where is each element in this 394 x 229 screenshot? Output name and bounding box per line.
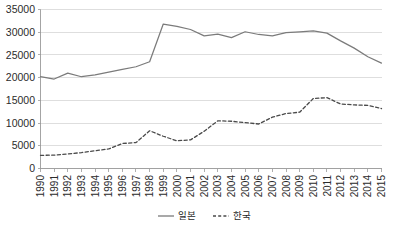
- x-tick-label: 2008: [281, 175, 292, 198]
- y-tick-label: 0: [29, 162, 35, 174]
- x-tick-label: 1991: [49, 175, 60, 198]
- x-tick-label: 2006: [253, 175, 264, 198]
- y-axis: [38, 10, 41, 169]
- x-tick-label: 1999: [158, 175, 169, 198]
- chart-legend: 일본한국: [158, 210, 251, 221]
- x-tick-label: 1993: [76, 175, 87, 198]
- x-tick-label: 2010: [308, 175, 319, 198]
- y-tick-label: 15000: [6, 94, 35, 106]
- x-tick-label: 2005: [240, 175, 251, 198]
- x-tick-label: 1997: [131, 175, 142, 198]
- x-tick-label: 2000: [172, 175, 183, 198]
- x-tick-label: 2011: [322, 175, 333, 197]
- series-line-korea: [41, 98, 382, 156]
- y-tick-label: 35000: [6, 3, 35, 15]
- x-tick-label: 1995: [103, 175, 114, 198]
- x-tick-label: 1994: [90, 175, 101, 198]
- chart-canvas: 05000100001500020000250003000035000 1990…: [0, 0, 394, 229]
- x-tick-label: 1998: [144, 175, 155, 198]
- x-tick-label: 2002: [199, 175, 210, 198]
- gridlines: [41, 10, 382, 169]
- x-tick-label: 2012: [335, 175, 346, 198]
- x-tick-label: 2013: [349, 175, 360, 198]
- x-tick-label: 2004: [226, 175, 237, 198]
- line-chart: 05000100001500020000250003000035000 1990…: [0, 0, 394, 229]
- x-tick-label: 2015: [376, 175, 387, 198]
- x-tick-label: 1990: [35, 175, 46, 198]
- x-tick-label: 1996: [117, 175, 128, 198]
- x-axis: [41, 169, 382, 172]
- x-tick-label: 2014: [362, 175, 373, 198]
- x-tick-label: 2001: [185, 175, 196, 198]
- x-tick-labels: 1990199119921993199419951996199719981999…: [35, 175, 387, 198]
- y-tick-label: 10000: [6, 117, 35, 129]
- x-tick-label: 2007: [267, 175, 278, 198]
- legend-label: 일본: [178, 210, 196, 221]
- x-tick-label: 1992: [62, 175, 73, 198]
- y-tick-label: 5000: [12, 139, 36, 151]
- y-tick-label: 30000: [6, 26, 35, 38]
- x-tick-label: 2003: [212, 175, 223, 198]
- y-tick-label: 20000: [6, 71, 35, 83]
- y-tick-label: 25000: [6, 49, 35, 61]
- x-tick-label: 2009: [294, 175, 305, 198]
- y-tick-labels: 05000100001500020000250003000035000: [6, 3, 35, 174]
- series-group: [41, 24, 382, 155]
- legend-label: 한국: [233, 210, 251, 221]
